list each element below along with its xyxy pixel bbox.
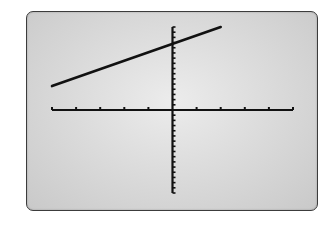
graph-line <box>52 27 221 86</box>
axes <box>52 27 293 193</box>
graph-plot <box>0 0 335 227</box>
plotted-line <box>52 27 221 86</box>
